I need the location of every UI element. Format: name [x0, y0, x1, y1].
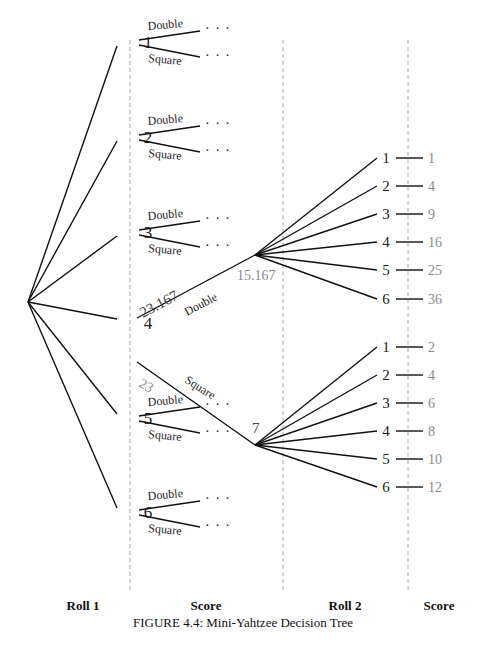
- ellipsis: · · ·: [205, 518, 231, 533]
- square-label: Square: [148, 427, 182, 444]
- ellipsis: · · ·: [205, 143, 231, 158]
- column-header-roll1: Roll 1: [67, 598, 100, 613]
- double-label: Double: [147, 111, 183, 128]
- square-roll2-roll-3: 3: [382, 395, 390, 411]
- double-roll2-score-2: 4: [428, 179, 435, 194]
- square-roll2-roll-4: 4: [382, 423, 390, 439]
- square-label: Square: [148, 51, 182, 68]
- ellipsis: · · ·: [205, 491, 231, 506]
- double-label: Double: [147, 392, 183, 409]
- double-roll2-roll-3: 3: [382, 206, 390, 222]
- roll1-edge-3: [28, 236, 117, 302]
- square-label: Square: [148, 241, 182, 258]
- column-header-roll2: Roll 2: [329, 598, 362, 613]
- double-roll2-roll-5: 5: [382, 262, 390, 278]
- ellipsis: · · ·: [205, 211, 231, 226]
- roll1-node-5: 5: [144, 409, 153, 428]
- double-roll2-roll-6: 6: [382, 291, 390, 307]
- roll1-edge-5: [28, 302, 117, 414]
- column-header-score1: Score: [191, 598, 222, 613]
- double-roll2-edge-1: [255, 158, 377, 255]
- double-roll2-score-3: 9: [428, 207, 435, 222]
- roll1-node-6: 6: [144, 503, 153, 522]
- figure-caption: FIGURE 4.4: Mini-Yahtzee Decision Tree: [133, 615, 353, 630]
- ellipsis: · · ·: [205, 21, 231, 36]
- square-roll2-score-1: 2: [428, 340, 435, 355]
- double-roll2-score-1: 1: [428, 151, 435, 166]
- square-node-value: 7: [252, 420, 260, 436]
- square-roll2-score-4: 8: [428, 424, 435, 439]
- double-label: Double: [147, 486, 183, 503]
- square-roll2-roll-5: 5: [382, 451, 390, 467]
- decision-tree-diagram: 1Double· · ·Square· · ·2Double· · ·Squar…: [0, 0, 481, 658]
- column-header-score2: Score: [424, 598, 455, 613]
- square-roll2-edge-1: [255, 347, 377, 445]
- square-expected-value: 23: [137, 376, 157, 396]
- double-roll2-roll-4: 4: [382, 234, 390, 250]
- square-label: Square: [148, 146, 182, 163]
- roll1-edge-1: [28, 46, 117, 302]
- double-roll2-roll-1: 1: [382, 150, 390, 166]
- double-label: Double: [147, 16, 183, 33]
- roll1-node-2: 2: [144, 128, 153, 147]
- square-roll2-roll-1: 1: [382, 339, 390, 355]
- roll1-edge-4: [28, 302, 117, 319]
- square-roll2-roll-2: 2: [382, 367, 390, 383]
- roll1-branches: 1Double· · ·Square· · ·2Double· · ·Squar…: [28, 16, 231, 538]
- square-roll2-score-3: 6: [428, 396, 435, 411]
- roll1-node-1: 1: [144, 33, 153, 52]
- expanded-roll4-branches: 23.167Double15.16723Square7: [137, 255, 276, 445]
- double-branch-label: Double: [182, 290, 220, 319]
- roll1-edge-2: [28, 141, 117, 302]
- square-roll2-roll-6: 6: [382, 479, 390, 495]
- roll1-node-3: 3: [144, 223, 153, 242]
- double-expected-value: 23.167: [137, 287, 181, 321]
- double-roll2-roll-2: 2: [382, 178, 390, 194]
- ellipsis: · · ·: [205, 116, 231, 131]
- roll1-edge-6: [28, 302, 117, 508]
- ellipsis: · · ·: [205, 424, 231, 439]
- ellipsis: · · ·: [205, 48, 231, 63]
- square-roll2-score-6: 12: [428, 480, 442, 495]
- double-roll2-score-5: 25: [428, 263, 442, 278]
- double-roll2-score-4: 16: [428, 235, 442, 250]
- square-roll2-score-2: 4: [428, 368, 435, 383]
- square-roll2-score-5: 10: [428, 452, 442, 467]
- double-label: Double: [147, 206, 183, 223]
- square-label: Square: [148, 521, 182, 538]
- double-roll2-score-6: 36: [428, 292, 442, 307]
- ellipsis: · · ·: [205, 238, 231, 253]
- double-node-value: 15.167: [237, 268, 276, 283]
